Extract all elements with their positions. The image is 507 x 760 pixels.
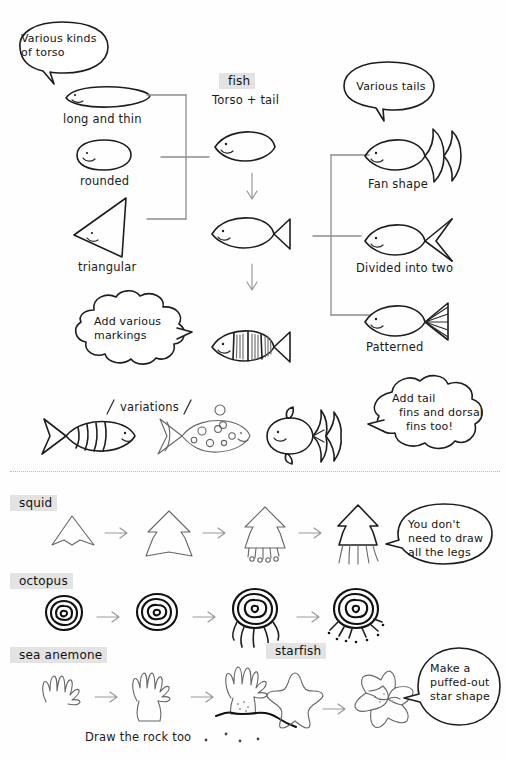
squid-shape-step3: [236, 504, 294, 564]
octopus-step-2: [134, 590, 180, 634]
octopus-shape-step3: [228, 586, 284, 648]
variation-fish-fancy: [262, 404, 344, 464]
tail-example-patterned: [362, 298, 454, 344]
squid-bubble-line3: all the legs: [408, 546, 496, 560]
dots-decoration: [200, 728, 270, 748]
section-divider: [10, 471, 500, 472]
anemone-shape-step1: [38, 672, 88, 712]
squid-step-3: [236, 504, 294, 564]
squid-bubble-line2: need to draw: [408, 532, 496, 546]
octopus-shape-step2: [134, 590, 180, 634]
torso-label-triangular: triangular: [78, 260, 136, 274]
squid-bubble-text: You don't need to draw all the legs: [408, 518, 496, 560]
squid-shape-step4: [328, 502, 388, 566]
anemone-shape-step2: [126, 668, 182, 724]
arrow-right-icon: [104, 526, 130, 540]
fins-bubble-line1: Add tail: [392, 392, 488, 406]
torso-label-rounded: rounded: [80, 174, 129, 188]
arrow-down-icon: [245, 172, 259, 202]
starfish-bubble-line2: puffed-out: [430, 676, 506, 690]
fins-bubble: Add tail fins and dorsal fins too!: [362, 372, 490, 454]
fish-with-tail-shape: [208, 213, 294, 253]
squid-step-4: [328, 502, 388, 566]
starfish-bubble-line3: star shape: [430, 690, 506, 704]
octopus-shape-step4: [326, 586, 386, 644]
left-bracket-connector: [145, 92, 211, 222]
squid-shape-step2: [140, 508, 198, 560]
starfish-bubble-text: Make a puffed-out star shape: [430, 662, 506, 704]
starfish-outline-shape: [264, 670, 326, 730]
squid-label: squid: [10, 495, 57, 511]
torso-example-triangular: [68, 195, 136, 261]
starfish-row-label: starfish: [266, 640, 326, 659]
arrow-down-icon: [245, 263, 259, 293]
bracket-lines: [145, 92, 211, 222]
arrow-right-icon: [94, 690, 120, 704]
center-fish-step-1: [211, 128, 279, 164]
tails-bubble: Various tails: [338, 58, 442, 124]
octopus-step-1: [42, 592, 86, 634]
fins-bubble-line2: fins and dorsal: [392, 406, 488, 420]
octopus-row-label: octopus: [10, 570, 73, 589]
octopus-arrow-2: [192, 610, 218, 624]
squid-step-2: [140, 508, 198, 560]
anemone-arrow-1: [94, 690, 120, 704]
torso-example-rounded: [73, 137, 135, 173]
tail-label-divided: Divided into two: [356, 261, 453, 275]
octopus-label: octopus: [10, 573, 73, 589]
fan-tail-fish-shape: [362, 126, 462, 184]
rock-caption: Draw the rock too: [85, 730, 191, 744]
fish-subheading: Torso + tail: [212, 93, 279, 107]
squid-arrow-2: [202, 526, 228, 540]
torso-bubble-line1: Various kinds: [21, 32, 113, 46]
tail-label-patterned: Patterned: [366, 340, 424, 354]
arrow-right-icon: [190, 690, 216, 704]
center-arrow-2: [245, 263, 259, 293]
starfish-bubble-line1: Make a: [430, 662, 506, 676]
torso-label-long-thin: long and thin: [63, 112, 142, 126]
tails-bubble-line1: Various tails: [346, 80, 436, 94]
anemone-step-2: [126, 668, 182, 724]
fish-with-markings-shape: [208, 325, 296, 369]
fish-torso-shape: [211, 128, 279, 164]
sea-anemone-label: sea anemone: [10, 647, 107, 663]
torso-bubble-line2: of torso: [21, 46, 113, 60]
octopus-step-3: [228, 586, 284, 648]
fins-bubble-line3: fins too!: [392, 420, 488, 434]
squid-step-1: [44, 512, 100, 552]
fancy-goldfish-shape: [262, 404, 344, 464]
center-fish-step-3: [208, 325, 296, 369]
octopus-shape-step1: [42, 592, 86, 634]
torso-example-long-thin: [62, 84, 154, 110]
squid-arrow-3: [298, 526, 324, 540]
arrow-right-icon: [322, 702, 348, 716]
starfish-arrow-1: [322, 702, 348, 716]
torso-bubble: Various kinds of torso: [10, 18, 120, 90]
variation-fish-spotted: [150, 412, 254, 460]
octopus-arrow-1: [96, 610, 122, 624]
markings-bubble-line2: markings: [94, 329, 180, 343]
starfish-label: starfish: [266, 643, 326, 659]
markings-bubble: Add various markings: [64, 288, 194, 370]
striped-fish-shape: [36, 414, 140, 460]
spotted-fish-shape: [150, 412, 254, 460]
fish-heading: fish: [219, 70, 255, 89]
tail-example-divided: [362, 216, 456, 264]
ellipse-round-shape: [73, 137, 135, 173]
fins-bubble-text: Add tail fins and dorsal fins too!: [392, 392, 488, 434]
tail-example-fan: [362, 126, 462, 184]
arrow-right-icon: [296, 610, 322, 624]
arrow-right-icon: [192, 610, 218, 624]
markings-bubble-line1: Add various: [94, 315, 180, 329]
ellipse-long-shape: [62, 84, 154, 110]
center-arrow-1: [245, 172, 259, 202]
arrow-right-icon: [96, 610, 122, 624]
squid-arrow-1: [104, 526, 130, 540]
octopus-arrow-3: [296, 610, 322, 624]
divided-tail-fish-shape: [362, 216, 456, 264]
torso-bubble-text: Various kinds of torso: [21, 32, 113, 60]
triangle-shape: [68, 195, 136, 261]
arrow-right-icon: [202, 526, 228, 540]
tails-bubble-text: Various tails: [346, 80, 436, 94]
anemone-arrow-2: [190, 690, 216, 704]
